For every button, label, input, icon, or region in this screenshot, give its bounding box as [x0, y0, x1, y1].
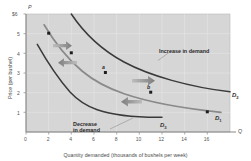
curve-label-d2-sub: 2	[236, 95, 238, 100]
x-tick-label-12: 12	[159, 136, 165, 142]
x-tick-label-14: 14	[181, 136, 187, 142]
x-axis-letter: Q	[238, 128, 242, 134]
x-axis-title: Quantity demanded (thousands of bushels …	[0, 152, 251, 158]
y-axis-letter: P	[28, 4, 32, 10]
y-tick-label-6: $6	[12, 11, 18, 17]
x-tick-label-2: 2	[47, 136, 50, 142]
demand-curve-plot	[0, 0, 251, 161]
x-tick-label-10: 10	[136, 136, 142, 142]
point-label-a: a	[102, 64, 105, 70]
curve-label-d2: D2	[232, 92, 239, 100]
y-tick-label-5: 5	[17, 31, 20, 37]
x-tick-label-0: 0	[24, 136, 27, 142]
demand-shift-figure: P Q $6 5 4 3 2 1 0 2 4 6 8 10 12 14 16 Q…	[0, 0, 251, 161]
annotation-decrease-in-demand: Decrease in demand	[73, 121, 100, 134]
y-tick-label-3: 3	[17, 70, 20, 76]
point-label-b: b	[147, 84, 150, 90]
y-tick-label-2: 2	[17, 90, 20, 96]
y-axis-title: Price (per bushel)	[7, 38, 13, 118]
curve-label-d1: D1	[215, 115, 222, 123]
x-tick-label-8: 8	[115, 136, 118, 142]
curve-label-d3: D3	[160, 122, 167, 130]
x-tick-label-4: 4	[69, 136, 72, 142]
y-tick-label-4: 4	[17, 51, 20, 57]
x-tick-label-6: 6	[92, 136, 95, 142]
x-tick-label-16: 16	[204, 136, 210, 142]
curve-label-d1-sub: 1	[219, 118, 221, 123]
annotation-decrease-line-2: in demand	[73, 127, 100, 133]
y-tick-label-1: 1	[17, 110, 20, 116]
curve-label-d3-sub: 3	[164, 125, 166, 130]
annotation-increase-in-demand: Increase in demand	[159, 48, 209, 54]
